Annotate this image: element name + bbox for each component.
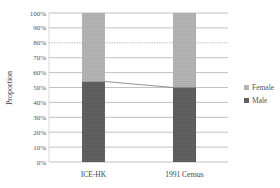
svg-text:60%: 60% <box>33 69 46 77</box>
gridlines <box>49 13 228 162</box>
x-category-1991-census: 1991 Census <box>165 170 204 179</box>
svg-text:10%: 10% <box>33 144 46 152</box>
stacked-bar-chart: 100% 90% 80% 70% 60% 50% 40% 30% 20% 10%… <box>0 0 280 188</box>
legend-item-female: Female <box>244 81 274 94</box>
bar-ice-hk-male <box>82 82 105 163</box>
x-category-ice-hk: ICE-HK <box>81 170 107 179</box>
svg-text:0%: 0% <box>37 159 47 167</box>
bar-ice-hk-female <box>82 13 105 82</box>
svg-text:100%: 100% <box>30 10 47 18</box>
svg-text:40%: 40% <box>33 99 46 107</box>
y-tick-labels: 100% 90% 80% 70% 60% 50% 40% 30% 20% 10%… <box>30 10 47 167</box>
svg-text:90%: 90% <box>33 24 46 32</box>
bar-1991-census <box>173 13 196 162</box>
legend-item-male: Male <box>244 94 274 107</box>
series-connector-line <box>105 82 173 88</box>
svg-text:70%: 70% <box>33 54 46 62</box>
female-swatch-icon <box>244 85 249 90</box>
svg-text:80%: 80% <box>33 39 46 47</box>
bar-census-male <box>173 88 196 163</box>
bar-census-female <box>173 13 196 88</box>
svg-text:30%: 30% <box>33 114 46 122</box>
bar-ice-hk <box>82 13 105 162</box>
legend: Female Male <box>244 81 274 107</box>
y-axis-label: Proportion <box>5 71 14 105</box>
legend-label-male: Male <box>252 96 267 105</box>
male-swatch-icon <box>244 98 249 103</box>
svg-text:50%: 50% <box>33 84 46 92</box>
svg-text:20%: 20% <box>33 129 46 137</box>
legend-label-female: Female <box>252 83 274 92</box>
